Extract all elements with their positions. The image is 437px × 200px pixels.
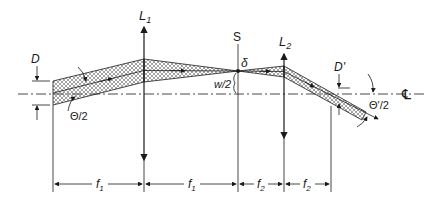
waist-label: w/2 <box>214 78 231 90</box>
output-diameter-label: D' <box>334 60 346 74</box>
input-angle-label: Θ/2 <box>70 110 88 122</box>
dim-f1-b: f1 <box>188 177 196 193</box>
optical-diagram: L1 L2 S δ w/2 D D' Θ/2 Θ'/2 ℄ f1 f1 f2 f… <box>0 0 437 200</box>
lens-l2-label: L2 <box>279 34 291 51</box>
output-angle-label: Θ'/2 <box>369 99 389 111</box>
centerline-symbol: ℄ <box>401 86 411 102</box>
spot-label: δ <box>241 56 248 70</box>
input-diameter-label: D <box>31 52 40 66</box>
lens-l1-label: L1 <box>139 8 151 25</box>
dim-f2-b: f2 <box>303 177 311 193</box>
dim-f1-a: f1 <box>96 177 104 193</box>
stop-label: S <box>233 30 241 44</box>
dim-f2-a: f2 <box>257 177 265 193</box>
output-beam <box>284 66 366 120</box>
